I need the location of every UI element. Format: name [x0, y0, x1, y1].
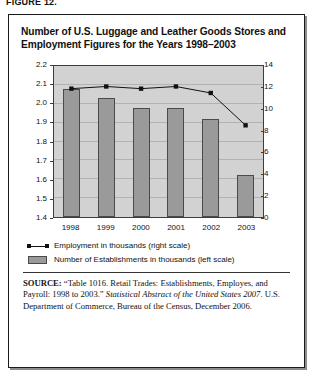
figure-label: FIGURE 12.: [6, 0, 57, 7]
line-series: [54, 66, 263, 217]
right-axis-tick: [261, 87, 264, 88]
left-axis-tick: [50, 84, 53, 85]
right-axis-tick-label: 6: [264, 148, 288, 156]
source-prefix: SOURCE:: [23, 278, 62, 288]
left-axis-tick: [50, 103, 53, 104]
right-axis-tick: [261, 196, 264, 197]
line-marker-2000: [139, 86, 143, 90]
x-axis-label-2000: 2000: [123, 223, 158, 232]
bar-swatch-icon: [27, 255, 49, 265]
left-axis-tick: [50, 180, 53, 181]
plot-area: [53, 65, 264, 218]
line-marker-2003: [243, 123, 247, 127]
left-axis-tick: [50, 199, 53, 200]
left-axis-tick-label: 1.7: [17, 157, 47, 165]
figure-box: Number of U.S. Luggage and Leather Goods…: [8, 14, 305, 368]
line-marker-1998: [69, 86, 73, 90]
legend-item-establishments: Number of Establishments in thousands (l…: [27, 254, 304, 266]
left-axis-tick: [50, 161, 53, 162]
chart-plot-wrapper: 1.41.51.61.71.81.92.02.12.2 02468101214 …: [9, 61, 304, 236]
line-marker-2002: [209, 91, 213, 95]
left-axis-tick-label: 2.0: [17, 99, 47, 107]
right-axis-tick: [261, 152, 264, 153]
right-axis-tick: [261, 218, 264, 219]
employment-line: [71, 86, 245, 125]
left-axis-tick-label: 1.5: [17, 195, 47, 203]
left-axis-tick: [50, 122, 53, 123]
right-axis-tick-label: 12: [264, 83, 288, 91]
right-axis-tick-label: 0: [264, 214, 288, 222]
left-axis-tick-label: 1.6: [17, 176, 47, 184]
source-publication: Statistical Abstract of the United State…: [106, 289, 261, 299]
right-axis-tick: [261, 131, 264, 132]
right-axis-tick-label: 2: [264, 192, 288, 200]
left-axis-tick-label: 2.2: [17, 61, 47, 69]
right-axis-tick-label: 14: [264, 61, 288, 69]
left-axis-tick: [50, 142, 53, 143]
line-marker-1999: [104, 84, 108, 88]
right-axis-tick: [261, 109, 264, 110]
legend-item-employment: Employment in thousands (right scale): [27, 240, 304, 252]
chart-legend: Employment in thousands (right scale) Nu…: [27, 240, 304, 266]
right-axis-tick-label: 4: [264, 170, 288, 178]
right-axis-tick-label: 8: [264, 127, 288, 135]
left-axis-tick-label: 2.1: [17, 80, 47, 88]
source-divider: [23, 272, 290, 273]
left-axis-tick: [50, 65, 53, 66]
x-axis-label-1999: 1999: [88, 223, 123, 232]
left-axis-tick-label: 1.8: [17, 138, 47, 146]
x-axis-label-2001: 2001: [159, 223, 194, 232]
left-axis-tick-label: 1.4: [17, 214, 47, 222]
chart-title: Number of U.S. Luggage and Leather Goods…: [21, 25, 292, 51]
right-axis-tick-label: 10: [264, 105, 288, 113]
right-axis-tick: [261, 65, 264, 66]
x-axis-label-2002: 2002: [194, 223, 229, 232]
x-axis-label-1998: 1998: [53, 223, 88, 232]
left-axis-tick-label: 1.9: [17, 118, 47, 126]
right-axis-tick: [261, 174, 264, 175]
x-axis-label-2003: 2003: [229, 223, 264, 232]
legend-label-employment: Employment in thousands (right scale): [54, 241, 190, 251]
line-marker-icon: [27, 241, 49, 251]
legend-label-establishments: Number of Establishments in thousands (l…: [54, 255, 235, 265]
line-marker-2001: [174, 84, 178, 88]
source-note: SOURCE: “Table 1016. Retail Trades: Esta…: [23, 278, 290, 312]
left-axis-tick: [50, 218, 53, 219]
